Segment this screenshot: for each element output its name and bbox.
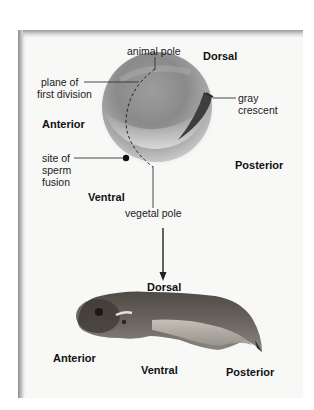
label-dorsal-egg: Dorsal	[203, 50, 237, 62]
label-ventral-egg: Ventral	[88, 191, 125, 203]
label-site-line2: sperm	[42, 164, 71, 176]
label-gray-line2: crescent	[238, 104, 278, 116]
label-plane-line2: first division	[37, 88, 92, 100]
label-posterior-egg: Posterior	[235, 159, 283, 171]
label-anterior-tadpole: Anterior	[53, 352, 96, 364]
label-posterior-tadpole: Posterior	[226, 366, 274, 378]
label-ventral-tadpole: Ventral	[141, 364, 178, 376]
label-gray-line1: gray	[238, 92, 258, 104]
diagram-graphics	[0, 0, 314, 410]
label-vegetal-pole: vegetal pole	[125, 207, 182, 219]
label-site-line3: fusion	[42, 176, 70, 188]
label-dorsal-tadpole: Dorsal	[147, 281, 181, 293]
tadpole-illustration	[76, 292, 262, 353]
label-plane-line1: plane of	[41, 76, 78, 88]
egg-illustration	[97, 48, 217, 168]
label-animal-pole: animal pole	[127, 45, 181, 57]
label-anterior-egg: Anterior	[42, 118, 85, 130]
development-arrow	[160, 228, 167, 281]
label-site-line1: site of	[42, 152, 70, 164]
